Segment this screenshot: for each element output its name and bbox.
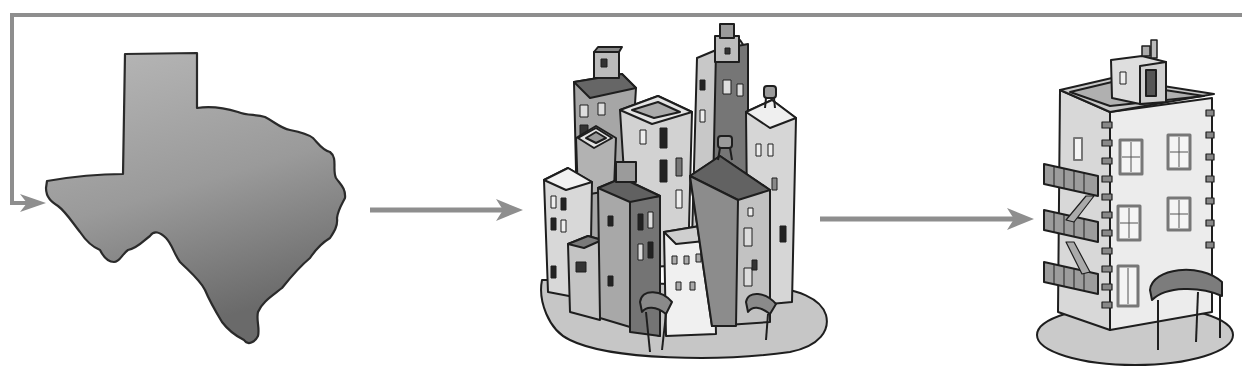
- diagram-canvas: Scale progression: state to city to buil…: [0, 0, 1247, 384]
- city-skyline-icon: [541, 24, 827, 358]
- arrow-state-to-city: [370, 199, 523, 221]
- building-icon: [1037, 40, 1233, 365]
- texas-map-icon: [46, 53, 345, 343]
- arrow-city-to-building: [820, 208, 1034, 230]
